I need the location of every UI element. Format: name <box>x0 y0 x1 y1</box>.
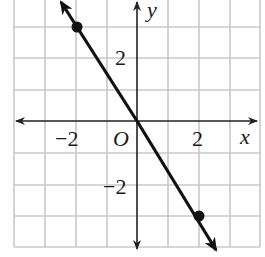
origin-label: O <box>113 128 129 150</box>
x-tick-neg2: −2 <box>55 128 78 150</box>
x-axis-label: x <box>240 126 250 148</box>
point-2-neg4 <box>194 211 205 222</box>
x-tick-2: 2 <box>192 128 203 150</box>
point-neg2-4 <box>72 22 83 33</box>
coordinate-graph <box>0 0 265 257</box>
y-tick-neg2: −2 <box>103 176 126 198</box>
y-axis-label: y <box>147 0 157 21</box>
y-tick-2: 2 <box>115 47 126 69</box>
